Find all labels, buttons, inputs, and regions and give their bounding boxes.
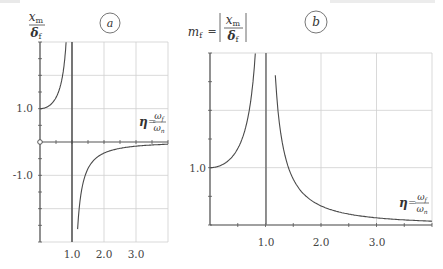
chart-b-ytick-1: 1.0 xyxy=(189,162,206,174)
chart-a-curve-above-resonance xyxy=(78,144,168,229)
figure-canvas: 1.0 2.0 3.0 1.0 -1.0 xm δf a η = ωf ωn xyxy=(0,0,443,269)
panel-b-label: b xyxy=(312,15,320,29)
svg-text:ωn: ωn xyxy=(416,204,427,215)
chart-a-xtick-3: 3.0 xyxy=(128,248,145,260)
chart-a-ytick-m1: -1.0 xyxy=(13,169,33,181)
chart-a-xtick-1: 1.0 xyxy=(64,248,81,260)
svg-text:xm: xm xyxy=(29,10,44,25)
chart-a-origin-marker xyxy=(38,140,43,145)
chart-b: 1.0 2.0 3.0 1.0 mf = xm δf b η = ωf ωn xyxy=(188,11,432,248)
chart-a-xlabel: η = ωf ωn xyxy=(139,111,166,134)
chart-b-xlabel: η = ωf ωn xyxy=(399,192,429,215)
svg-text:δf: δf xyxy=(227,29,240,44)
cropped-header-fragment-left xyxy=(0,0,20,3)
chart-a: 1.0 2.0 3.0 1.0 -1.0 xm δf a η = ωf ωn xyxy=(13,10,168,260)
svg-text:η: η xyxy=(139,115,148,129)
chart-a-ylabel: xm δf xyxy=(29,10,45,41)
chart-a-xtick-2: 2.0 xyxy=(96,248,113,260)
svg-text:δf: δf xyxy=(30,26,43,41)
svg-text:mf: mf xyxy=(188,25,203,40)
svg-text:η: η xyxy=(399,196,408,210)
svg-text:xm: xm xyxy=(226,13,241,28)
svg-text:=: = xyxy=(408,197,416,208)
chart-b-xtick-1: 1.0 xyxy=(258,236,275,248)
svg-text:=: = xyxy=(207,25,216,38)
chart-b-xtick-2: 2.0 xyxy=(313,236,330,248)
cropped-header-fragment-right xyxy=(330,0,435,3)
svg-text:ωf: ωf xyxy=(154,111,165,123)
chart-b-ylabel: mf = xm δf xyxy=(188,13,246,44)
svg-text:ωn: ωn xyxy=(153,123,164,134)
chart-a-ytick-1: 1.0 xyxy=(16,102,33,114)
svg-text:ωf: ωf xyxy=(417,192,428,204)
chart-b-xtick-3: 3.0 xyxy=(369,236,386,248)
panel-a-label: a xyxy=(107,17,114,30)
ylabel-den-a: δ xyxy=(30,26,39,40)
